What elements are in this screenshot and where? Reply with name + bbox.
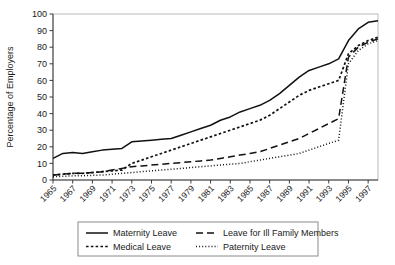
x-axis-tick-label: 1997	[353, 183, 374, 204]
x-axis-tick-label: 1965	[38, 183, 59, 204]
plot-axes	[53, 14, 378, 180]
x-axis-tick-label: 1971	[97, 183, 118, 204]
series-line-maternity-leave	[53, 21, 378, 159]
x-axis-tick-label: 1983	[215, 183, 236, 204]
legend-label-paternity-leave: Paternity Leave	[223, 242, 286, 252]
x-axis-tick-label: 1975	[136, 183, 157, 204]
legend-label-leave-for-ill-family-members: Leave for Ill Family Members	[223, 228, 339, 238]
x-axis-tick-label: 1969	[77, 183, 98, 204]
y-axis-tick-label: 30	[37, 125, 47, 135]
line-chart: 0102030405060708090100196519671969197119…	[0, 0, 395, 265]
legend-label-maternity-leave: Maternity Leave	[113, 228, 177, 238]
x-axis-tick-label: 1973	[117, 183, 138, 204]
x-axis-tick-label: 1967	[58, 183, 79, 204]
x-axis-tick-label: 1993	[314, 183, 335, 204]
y-axis-tick-label: 20	[37, 142, 47, 152]
series-line-medical-leave	[53, 37, 378, 175]
x-axis-tick-label: 1995	[333, 183, 354, 204]
x-axis-tick-label: 1985	[235, 183, 256, 204]
series-line-paternity-leave	[53, 41, 378, 177]
y-axis-tick-label: 80	[37, 42, 47, 52]
y-axis-tick-label: 10	[37, 159, 47, 169]
x-axis-tick-label: 1989	[274, 183, 295, 204]
x-axis-tick-label: 1981	[196, 183, 217, 204]
y-axis-tick-label: 50	[37, 92, 47, 102]
chart-figure: 0102030405060708090100196519671969197119…	[0, 0, 395, 265]
y-axis-tick-label: 100	[32, 9, 47, 19]
x-axis-tick-label: 1977	[156, 183, 177, 204]
y-axis-tick-label: 40	[37, 109, 47, 119]
y-axis-tick-label: 60	[37, 76, 47, 86]
y-axis-tick-label: 70	[37, 59, 47, 69]
y-axis-title: Percentage of Employers	[5, 46, 15, 148]
y-axis-tick-label: 90	[37, 26, 47, 36]
legend-label-medical-leave: Medical Leave	[113, 242, 171, 252]
plot-frame	[53, 14, 378, 180]
x-axis-tick-label: 1979	[176, 183, 197, 204]
y-axis-tick-label: 0	[42, 175, 47, 185]
x-axis-tick-label: 1987	[255, 183, 276, 204]
series-line-leave-for-ill-family-members	[53, 39, 378, 175]
x-axis-tick-label: 1991	[294, 183, 315, 204]
